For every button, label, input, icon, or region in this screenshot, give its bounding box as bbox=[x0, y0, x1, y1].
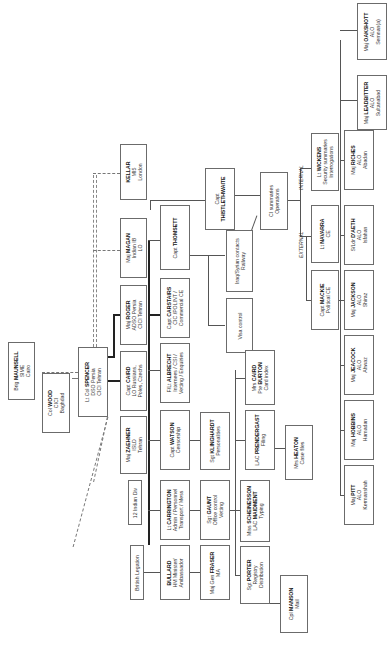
link-watson bbox=[148, 440, 160, 441]
node-zaehner[interactable]: Maj ZAEHNERISLDTehran bbox=[120, 416, 147, 474]
link-roger-trunk-h bbox=[148, 314, 160, 316]
node-carrington[interactable]: Lt CARRINGTONAdmin / PersonnelTransport … bbox=[160, 480, 190, 540]
node-pitt[interactable]: Maj PITTALOKermanshah bbox=[344, 465, 374, 525]
node-manson[interactable]: Cpl MANSONMail bbox=[280, 575, 308, 633]
link-thomsett-thistle bbox=[150, 200, 205, 201]
link-bullard-fraser bbox=[190, 572, 200, 573]
link-burton bbox=[235, 378, 245, 379]
node-klinghardt[interactable]: Sgt KLINGHARDTPersonalities bbox=[200, 412, 230, 470]
node-caird[interactable]: Capt CAIRDLO Russians,Poles, Czechs bbox=[120, 351, 147, 411]
node-daeth[interactable]: S/Ldr D'AETHALOIsfahan bbox=[344, 205, 374, 265]
link-carrington-gaunt bbox=[190, 510, 200, 511]
node-fraser[interactable]: Maj Gen FRASERMA bbox=[200, 545, 230, 600]
node-maunsell[interactable]: Brig MAUNSELLSIMECairo bbox=[8, 342, 35, 400]
link-albrecht bbox=[148, 370, 160, 371]
node-carstairs[interactable]: Capt CARSTAIRSCIC /POLINT /Commercial CE bbox=[160, 278, 190, 338]
node-caird-burton[interactable]: Mrs CAIRDPte BURTONCard index bbox=[245, 350, 275, 405]
link-alo-trunk bbox=[340, 40, 341, 495]
link-watson-klinghardt bbox=[190, 440, 200, 441]
link-support-trunk bbox=[235, 370, 236, 575]
node-prendergast[interactable]: LAC PRENDERGASTFiling bbox=[245, 410, 275, 470]
node-name: MAUNSELL bbox=[12, 351, 18, 380]
link-roger-h bbox=[113, 314, 120, 316]
link-thomsett-thistle-v bbox=[150, 200, 151, 210]
link-spencer-kellar bbox=[93, 175, 97, 347]
node-navarra[interactable]: Lt NAVARRACE bbox=[311, 205, 339, 263]
node-magan[interactable]: Maj MAGANIndian IBLO bbox=[120, 218, 147, 278]
link-thomsett-visa-v bbox=[208, 255, 209, 325]
link-thistle-ci bbox=[235, 195, 260, 196]
link-magan bbox=[93, 250, 120, 251]
link-oakshott bbox=[340, 30, 357, 31]
label-external: EXTERNAL bbox=[298, 232, 304, 258]
node-leadbitter[interactable]: Maj LEADBITTERALOSultanabad bbox=[357, 75, 387, 130]
node-thomsett[interactable]: Capt THOMSETT bbox=[160, 205, 190, 270]
node-wood[interactable]: Col WOODCICIBaghdad bbox=[42, 373, 70, 433]
link-ci-split bbox=[288, 200, 300, 201]
link-spencer-caird bbox=[108, 380, 120, 382]
node-ci-summaries[interactable]: CI summariesOperations bbox=[260, 172, 288, 230]
node-bullard[interactable]: BULLARDHM Minister/Ambassador bbox=[160, 545, 190, 600]
node-gaunt[interactable]: Sgt GAUNTOffice controlVetting bbox=[200, 480, 230, 540]
node-oakshott[interactable]: Maj OAKSHOTTALOSemnan(a) bbox=[357, 3, 387, 60]
node-mackie[interactable]: Capt MACKIEPolitical CE bbox=[311, 270, 339, 330]
link-external-mackie bbox=[306, 236, 307, 300]
node-porter[interactable]: Sgt PORTERRegistryDistribution bbox=[240, 546, 270, 604]
node-riches[interactable]: Maj RICHESALOAbadan bbox=[344, 130, 374, 190]
node-heaton[interactable]: Mrs HEATONCase files bbox=[285, 425, 313, 480]
link-thomsett bbox=[148, 240, 160, 241]
node-iraq-syrian[interactable]: Iraq/Syrian contactsRailway bbox=[226, 230, 253, 292]
label-internal: INTERNAL bbox=[298, 165, 304, 190]
node-thistlethwaite[interactable]: CaptTHISTLETHWAITE bbox=[205, 168, 235, 230]
node-jeacock[interactable]: Maj JEACOCKALOAhwaz bbox=[344, 335, 374, 395]
link-prendergast bbox=[235, 440, 245, 441]
node-jackson[interactable]: Maj JACKSONALOShiraz bbox=[344, 270, 374, 330]
link-leadbitter bbox=[340, 100, 357, 101]
link-spencer-legation bbox=[73, 417, 109, 547]
node-12-indian-div[interactable]: 12 Indian Div bbox=[128, 480, 142, 525]
node-visa-control[interactable]: Visa control bbox=[226, 298, 253, 353]
link-kellar bbox=[93, 173, 120, 174]
node-kellar[interactable]: KELLARMI5London bbox=[120, 144, 147, 200]
link-visa bbox=[208, 325, 225, 326]
node-scheinesson[interactable]: Miss SCHEINESSONLAC MAIDMENTTyping bbox=[240, 480, 270, 542]
node-albrecht[interactable]: F/Lt ALBRECHTInternees / CSI /Vetting / … bbox=[160, 343, 190, 403]
link-carrington bbox=[148, 510, 160, 511]
node-hobbins[interactable]: Maj HOBBINSALOHamadan bbox=[344, 400, 374, 460]
link-legation-bullard bbox=[144, 572, 160, 573]
link-roger-trunk bbox=[148, 240, 150, 545]
node-watson[interactable]: Capt WATSONCensorship bbox=[160, 410, 190, 470]
link-prendergast-heaton bbox=[275, 448, 285, 449]
node-spencer[interactable]: Lt Col SPENCERDSO PersiaCICI Tehran bbox=[78, 347, 108, 417]
link-porter-manson bbox=[270, 603, 280, 604]
node-wickens[interactable]: Lt WICKENSSecurity summariesInterrogatio… bbox=[311, 133, 339, 191]
node-roger[interactable]: Maj ROGERADSO PersiaCICI Tehran bbox=[120, 285, 147, 345]
node-british-legation[interactable]: British Legation bbox=[130, 545, 144, 600]
link-roger-vert bbox=[113, 314, 115, 358]
